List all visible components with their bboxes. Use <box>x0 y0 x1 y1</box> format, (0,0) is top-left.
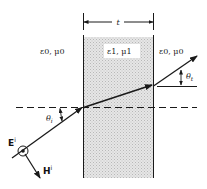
h-field-arrow <box>25 154 40 178</box>
transmitted-angle-label: θt <box>186 72 194 82</box>
incident-angle-arrow <box>60 109 62 122</box>
left-medium-label: ε0, μ0 <box>40 47 65 56</box>
right-medium-label: ε0, μ0 <box>159 47 184 56</box>
incident-angle-label: θi <box>46 114 53 124</box>
slab-diagram: t ε0, μ0 ε1, μ1 ε0, μ0 θt θi Ei Hi <box>0 0 207 189</box>
slab-medium-label: ε1, μ1 <box>107 47 132 56</box>
h-field-label: Hi <box>43 164 53 176</box>
thickness-label: t <box>116 18 120 27</box>
e-field-label: Ei <box>8 136 16 148</box>
e-field-dot-icon <box>21 149 25 153</box>
